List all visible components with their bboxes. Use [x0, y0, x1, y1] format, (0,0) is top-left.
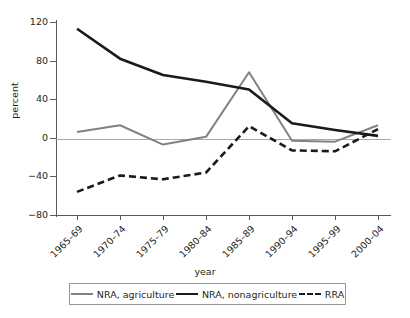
x-axis-tick-mark: [206, 215, 207, 220]
legend-swatch-line-icon: [71, 290, 93, 298]
x-axis-tick-mark: [249, 215, 250, 220]
x-axis-tick-label: 1995–99: [298, 223, 343, 268]
y-axis-tick-label: 120: [16, 17, 48, 27]
y-axis-tick-label-text: 80: [22, 56, 48, 65]
y-axis-tick-label: 80: [16, 56, 48, 66]
x-axis-tick-mark: [335, 215, 336, 220]
x-axis-line: [56, 215, 391, 216]
series-line-rra: [77, 126, 378, 192]
y-axis-tick-label-text: 0: [22, 133, 48, 142]
x-axis-tick-label: 1985–89: [212, 223, 257, 268]
plot-area: [56, 22, 390, 215]
legend-label: NRA, nonagriculture: [202, 289, 297, 300]
y-axis-tick-label-text: −80: [22, 210, 48, 219]
y-axis-tick-label: −40: [16, 171, 48, 181]
legend-item-nra-nonagriculture[interactable]: NRA, nonagriculture: [176, 289, 297, 300]
y-axis-tick-label: 40: [16, 94, 48, 104]
x-axis-title: year: [0, 266, 410, 277]
y-axis-tick-label-text: 120: [22, 17, 48, 26]
x-axis-tick-label: 1965–69: [40, 223, 85, 268]
x-axis-tick-mark: [163, 215, 164, 220]
chart-legend: NRA, agriculture NRA, nonagriculture RRA: [69, 283, 346, 305]
y-axis-tick-label-text: 40: [22, 94, 48, 103]
legend-label: NRA, agriculture: [97, 289, 174, 300]
x-axis-tick-mark: [292, 215, 293, 220]
series-lines: [56, 22, 390, 215]
legend-swatch-dashed-line-icon: [299, 290, 321, 298]
chart-figure: percent 12080400−40−80 1965–691970–74197…: [0, 0, 410, 318]
y-axis-tick-label: −80: [16, 210, 48, 220]
x-axis-tick-mark: [378, 215, 379, 220]
x-axis-tick-mark: [120, 215, 121, 220]
y-axis-tick-label: 0: [16, 133, 48, 143]
x-axis-tick-label: 2000–04: [341, 223, 386, 268]
x-axis-tick-label: 1980–84: [169, 223, 214, 268]
legend-swatch-line-icon: [176, 290, 198, 298]
legend-item-nra-agriculture[interactable]: NRA, agriculture: [71, 289, 174, 300]
y-axis-tick-label-text: −40: [22, 171, 48, 180]
x-axis-tick-mark: [77, 215, 78, 220]
series-line-nra-agriculture: [77, 72, 378, 144]
x-axis-tick-label: 1990–94: [255, 223, 300, 268]
x-axis-tick-label: 1975–79: [126, 223, 171, 268]
x-axis-tick-label: 1970–74: [83, 223, 128, 268]
legend-label: RRA: [325, 289, 344, 300]
legend-item-rra[interactable]: RRA: [299, 289, 344, 300]
series-line-nra-nonagriculture: [77, 29, 378, 136]
